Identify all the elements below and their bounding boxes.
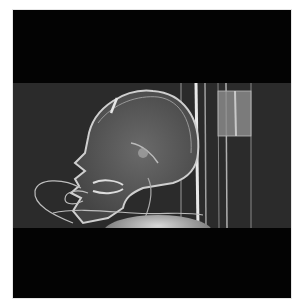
image-description: Lateral skull scout radiograph (CT topog… (13, 10, 14, 11)
skull (71, 91, 198, 223)
skull-radiograph (13, 83, 291, 228)
radiograph-drawing (13, 83, 291, 228)
image-frame: Lateral skull scout radiograph (CT topog… (13, 10, 291, 298)
